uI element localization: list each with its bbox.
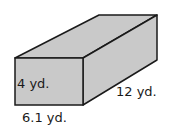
- prism-diagram: 4 yd. 6.1 yd. 12 yd.: [0, 0, 169, 138]
- width-label: 6.1 yd.: [22, 110, 67, 125]
- length-label: 12 yd.: [116, 84, 157, 99]
- height-label: 4 yd.: [17, 76, 49, 91]
